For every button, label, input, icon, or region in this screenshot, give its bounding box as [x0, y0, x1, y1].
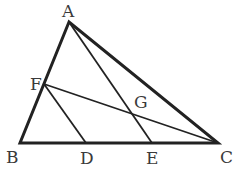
- label-d: D: [80, 148, 94, 168]
- label-f: F: [30, 74, 42, 94]
- segment-ae: [69, 22, 152, 143]
- label-e: E: [146, 148, 158, 168]
- label-g: G: [134, 92, 148, 112]
- label-a: A: [61, 1, 75, 21]
- segment-fd: [44, 84, 86, 143]
- label-c: C: [220, 147, 233, 167]
- label-b: B: [6, 147, 19, 167]
- triangle-abc: [20, 22, 218, 143]
- triangle-diagram: A F G B D E C: [0, 0, 238, 171]
